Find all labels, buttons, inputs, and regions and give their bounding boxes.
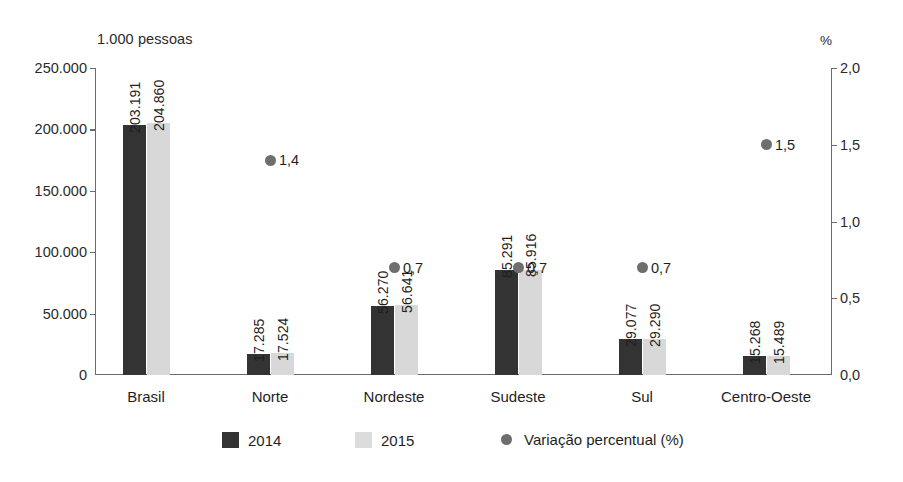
variation-label-sul: 0,7 (651, 261, 671, 276)
bar-brasil-2014 (123, 125, 146, 375)
bar-brasil-2015 (147, 123, 170, 375)
bar-value-centro-oeste-2015: 15.489 (772, 321, 786, 364)
variation-dot-nordeste (389, 262, 400, 273)
left-tick-150.000: 150.000 (35, 184, 87, 199)
legend-item-2015[interactable]: 2015 (355, 432, 414, 448)
left-y-axis-line (95, 68, 96, 375)
right-tick-mark (832, 222, 837, 223)
left-tick-0: 0 (79, 368, 87, 383)
left-tick-250.000: 250.000 (35, 61, 87, 76)
right-tick-mark (832, 145, 837, 146)
right-axis-unit-caption: % (820, 33, 832, 48)
legend-swatch-icon (222, 432, 239, 448)
bar-value-brasil-2015: 204.860 (152, 80, 166, 131)
x-axis-line (95, 374, 832, 375)
left-tick-mark (90, 68, 95, 69)
legend-label: 2014 (248, 433, 281, 448)
left-tick-200.000: 200.000 (35, 122, 87, 137)
right-tick-1,5: 1,5 (840, 138, 860, 153)
bar-nordeste-2015 (395, 305, 418, 375)
right-tick-0,5: 0,5 (840, 291, 860, 306)
variation-label-norte: 1,4 (279, 153, 299, 168)
left-tick-mark (90, 191, 95, 192)
bar-value-nordeste-2014: 56.270 (376, 270, 390, 313)
category-label-sul: Sul (631, 389, 653, 404)
variation-dot-centro-oeste (761, 139, 772, 150)
variation-dot-norte (265, 155, 276, 166)
bar-sudeste-2014 (495, 270, 518, 375)
left-tick-100.000: 100.000 (35, 245, 87, 260)
legend-swatch-icon (355, 432, 372, 448)
plot-area: 203.191204.86017.28517.52456.27056.64185… (95, 68, 832, 375)
bar-value-sul-2015: 29.290 (648, 304, 662, 347)
legend-item-varia-o-percentual[interactable]: Variação percentual (%) (498, 432, 684, 447)
right-tick-0,0: 0,0 (840, 368, 860, 383)
category-label-nordeste: Nordeste (364, 389, 425, 404)
legend-label: Variação percentual (%) (524, 432, 684, 447)
category-label-sudeste: Sudeste (490, 389, 545, 404)
chart-legend: 20142015Variação percentual (%) (0, 428, 903, 458)
left-tick-mark (90, 129, 95, 130)
variation-label-centro-oeste: 1,5 (775, 138, 795, 153)
legend-dot-icon (501, 434, 512, 445)
variation-label-nordeste: 0,7 (403, 261, 423, 276)
right-tick-1,0: 1,0 (840, 215, 860, 230)
variation-label-sudeste: 0,7 (527, 261, 547, 276)
bar-nordeste-2014 (371, 306, 394, 375)
right-tick-mark (832, 298, 837, 299)
left-tick-mark (90, 252, 95, 253)
bar-value-nordeste-2015: 56.641 (400, 270, 414, 313)
bar-value-sul-2014: 29.077 (624, 304, 638, 347)
category-label-brasil: Brasil (127, 389, 165, 404)
variation-dot-sul (637, 262, 648, 273)
bar-value-norte-2014: 17.285 (252, 318, 266, 361)
chart-container: 1.000 pessoas % 203.191204.86017.28517.5… (0, 0, 903, 482)
category-label-centro-oeste: Centro-Oeste (721, 389, 811, 404)
left-tick-mark (90, 314, 95, 315)
bar-value-sudeste-2014: 85.291 (500, 235, 514, 278)
variation-dot-sudeste (513, 262, 524, 273)
right-tick-mark (832, 68, 837, 69)
left-tick-50.000: 50.000 (43, 307, 87, 322)
legend-label: 2015 (381, 433, 414, 448)
bar-value-centro-oeste-2014: 15.268 (748, 321, 762, 364)
left-axis-unit-caption: 1.000 pessoas (97, 31, 193, 47)
legend-item-2014[interactable]: 2014 (222, 432, 281, 448)
bar-value-brasil-2014: 203.191 (128, 82, 142, 133)
right-tick-2,0: 2,0 (840, 61, 860, 76)
bar-value-norte-2015: 17.524 (276, 318, 290, 361)
category-label-norte: Norte (252, 389, 289, 404)
bar-sudeste-2015 (519, 270, 542, 376)
